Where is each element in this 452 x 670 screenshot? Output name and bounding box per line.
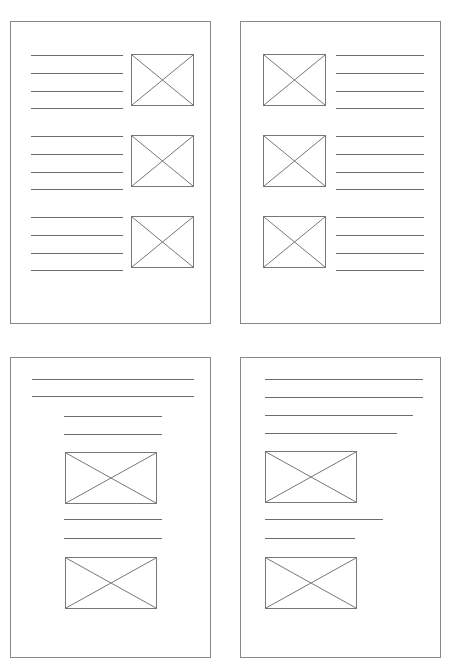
text-line (265, 433, 397, 434)
text-line (31, 172, 123, 173)
image-placeholder[interactable] (131, 54, 194, 106)
image-placeholder[interactable] (65, 452, 157, 504)
text-line (336, 217, 424, 218)
text-line (265, 397, 423, 398)
image-placeholder[interactable] (263, 135, 326, 187)
text-line (336, 253, 424, 254)
image-placeholder[interactable] (131, 135, 194, 187)
image-placeholder[interactable] (263, 216, 326, 268)
page-bottom-right[interactable] (240, 357, 441, 658)
image-placeholder-cross-icon (266, 452, 356, 502)
image-placeholder-cross-icon (266, 558, 356, 608)
text-line (265, 379, 423, 380)
image-placeholder[interactable] (265, 557, 357, 609)
text-line (336, 189, 424, 190)
image-placeholder[interactable] (265, 451, 357, 503)
text-line (31, 217, 123, 218)
text-line (64, 519, 162, 520)
image-placeholder-cross-icon (264, 136, 325, 186)
text-line (336, 55, 424, 56)
page-top-right[interactable] (240, 21, 441, 324)
text-line (31, 154, 123, 155)
figure-canvas (0, 0, 452, 670)
text-line (31, 189, 123, 190)
text-line (32, 396, 194, 397)
text-line (64, 434, 162, 435)
text-line (31, 235, 123, 236)
image-placeholder-cross-icon (264, 217, 325, 267)
text-line (336, 154, 424, 155)
text-line (336, 136, 424, 137)
text-line (31, 136, 123, 137)
text-line (336, 172, 424, 173)
text-line (265, 519, 383, 520)
text-line (31, 253, 123, 254)
text-line (31, 55, 123, 56)
text-line (336, 73, 424, 74)
image-placeholder-cross-icon (132, 217, 193, 267)
image-placeholder-cross-icon (66, 453, 156, 503)
text-line (336, 108, 424, 109)
image-placeholder-cross-icon (66, 558, 156, 608)
text-line (265, 415, 413, 416)
text-line (64, 416, 162, 417)
text-line (31, 270, 123, 271)
text-line (336, 270, 424, 271)
text-line (31, 73, 123, 74)
text-line (32, 379, 194, 380)
image-placeholder-cross-icon (132, 55, 193, 105)
image-placeholder-cross-icon (264, 55, 325, 105)
text-line (31, 91, 123, 92)
text-line (31, 108, 123, 109)
text-line (64, 538, 162, 539)
text-line (336, 235, 424, 236)
text-line (265, 538, 355, 539)
image-placeholder[interactable] (263, 54, 326, 106)
image-placeholder[interactable] (65, 557, 157, 609)
image-placeholder[interactable] (131, 216, 194, 268)
page-top-left[interactable] (10, 21, 211, 324)
image-placeholder-cross-icon (132, 136, 193, 186)
page-bottom-left[interactable] (10, 357, 211, 658)
text-line (336, 91, 424, 92)
